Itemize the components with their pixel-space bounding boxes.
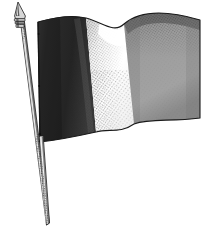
illustration-canvas: Tricolour flag on a staff [0, 0, 224, 230]
finial-collar-1 [14, 19, 25, 22]
flag-illustration-svg [0, 0, 224, 230]
